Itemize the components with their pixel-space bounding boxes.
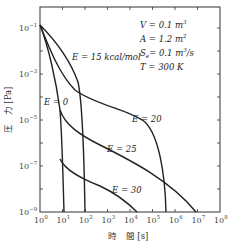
param-t: T = 300 K [140, 62, 184, 72]
y-axis-labels: 10−1 10−3 10−5 10−7 10−9 [19, 22, 38, 217]
svg-text:108: 108 [214, 214, 228, 225]
label-e25: E = 25 [106, 144, 137, 154]
label-e20: E = 20 [131, 114, 162, 124]
svg-text:101: 101 [57, 214, 71, 225]
svg-text:10−5: 10−5 [19, 114, 38, 125]
svg-text:10−7: 10−7 [19, 160, 38, 171]
y-axis-title: 圧 力 [Pa] [3, 87, 13, 134]
svg-text:104: 104 [124, 214, 138, 225]
x-axis-title: 時 間 [s] [108, 231, 149, 241]
parameters: V = 0.1 m3 A = 1.2 m2 Se= 0.1 m3/s T = 3… [139, 19, 195, 72]
param-a: A = 1.2 m [139, 34, 183, 44]
pressure-time-chart: 10−1 10−3 10−5 10−7 10−9 100 101 102 103… [0, 0, 230, 243]
svg-text:102: 102 [79, 214, 93, 225]
label-e0: E = 0 [43, 97, 69, 107]
param-s: = 0.1 m [149, 48, 183, 58]
svg-text:106: 106 [169, 214, 183, 225]
svg-text:10−3: 10−3 [19, 68, 38, 79]
svg-text:10−1: 10−1 [19, 22, 37, 33]
svg-text:A = 1.2 m2: A = 1.2 m2 [139, 33, 187, 44]
svg-text:107: 107 [192, 214, 206, 225]
svg-text:100: 100 [34, 214, 48, 225]
curve-e25 [60, 110, 196, 212]
svg-text:Se= 0.1 m3/s: Se= 0.1 m3/s [140, 47, 195, 59]
label-e15: E = 15 kcal/mol [71, 52, 141, 62]
param-v: V = 0.1 m [140, 20, 183, 30]
svg-text:103: 103 [102, 214, 116, 225]
label-e30: E = 30 [111, 185, 142, 195]
svg-text:V = 0.1 m3: V = 0.1 m3 [140, 19, 187, 30]
svg-text:105: 105 [147, 214, 161, 225]
x-axis-labels: 100 101 102 103 104 105 106 107 108 [34, 214, 228, 225]
plot-frame [40, 7, 220, 212]
